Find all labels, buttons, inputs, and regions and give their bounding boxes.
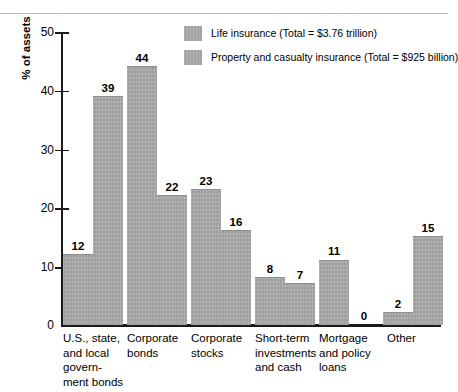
x-label-line: and cash (255, 360, 327, 375)
x-label-line: bonds (127, 346, 197, 361)
x-label-corporate-bonds: Corporate bonds (127, 331, 197, 360)
bar-property-short-term[interactable] (285, 283, 315, 325)
bar-value-property-corporate-bonds: 22 (153, 182, 191, 194)
x-label-line: investments (255, 346, 327, 361)
bar-life-other[interactable] (383, 312, 413, 325)
y-tick-label-10: 10 (20, 261, 54, 273)
bar-value-property-short-term: 7 (281, 270, 319, 282)
x-label-line: Corporate (127, 331, 197, 346)
bar-value-life-other: 2 (379, 299, 417, 311)
bar-group-other: 2 15 (383, 32, 445, 325)
bar-property-corporate-stocks[interactable] (221, 230, 251, 325)
x-label-other: Other (387, 331, 447, 346)
bar-property-other[interactable] (413, 236, 443, 325)
bar-group-corporate-bonds: 44 22 (127, 32, 189, 325)
bar-group-us-state-local-government-bonds: 12 39 (63, 32, 125, 325)
x-label-line: Mortgage (319, 331, 387, 346)
bar-group-short-term-investments-and-cash: 8 7 (255, 32, 317, 325)
bar-value-life-corporate-stocks: 23 (187, 176, 225, 188)
y-tick-label-50: 50 (20, 26, 54, 38)
bar-property-us-bonds[interactable] (93, 96, 123, 326)
plot-area: 12 39 44 22 23 16 8 7 11 (63, 32, 441, 325)
bar-value-property-mortgage-loans: 0 (345, 311, 383, 323)
bar-group-corporate-stocks: 23 16 (191, 32, 253, 325)
x-label-line: Other (387, 331, 447, 346)
x-label-line: and policy (319, 346, 387, 361)
bar-value-property-corporate-stocks: 16 (217, 217, 255, 229)
y-tick-label-40: 40 (20, 85, 54, 97)
bar-value-life-corporate-bonds: 44 (123, 53, 161, 65)
x-label-short-term-investments-and-cash: Short-term investments and cash (255, 331, 327, 375)
bar-value-life-us-bonds: 12 (59, 241, 97, 253)
x-label-line: loans (319, 360, 387, 375)
x-label-line: govern- (63, 360, 139, 375)
x-axis-category-labels: U.S., state, and local govern- ment bond… (63, 331, 448, 391)
bar-life-short-term[interactable] (255, 277, 285, 325)
bar-value-life-mortgage-loans: 11 (315, 246, 353, 258)
x-label-line: ment bonds (63, 375, 139, 390)
y-tick-label-20: 20 (20, 202, 54, 214)
x-label-line: Corporate (191, 331, 261, 346)
x-label-corporate-stocks: Corporate stocks (191, 331, 261, 360)
bar-value-property-us-bonds: 39 (89, 83, 127, 95)
x-label-line: stocks (191, 346, 261, 361)
y-tick-label-0: 0 (20, 319, 54, 331)
bar-life-corporate-stocks[interactable] (191, 189, 221, 325)
x-label-line: Short-term (255, 331, 327, 346)
bar-property-corporate-bonds[interactable] (157, 195, 187, 325)
y-axis-title: % of assets (20, 0, 32, 96)
top-divider-rule (0, 13, 448, 14)
bar-group-mortgage-and-policy-loans: 11 0 (319, 32, 381, 325)
bar-value-property-other: 15 (409, 223, 447, 235)
x-label-mortgage-and-policy-loans: Mortgage and policy loans (319, 331, 387, 375)
y-tick-label-30: 30 (20, 144, 54, 156)
bar-life-corporate-bonds[interactable] (127, 66, 157, 325)
bar-life-us-bonds[interactable] (63, 254, 93, 325)
